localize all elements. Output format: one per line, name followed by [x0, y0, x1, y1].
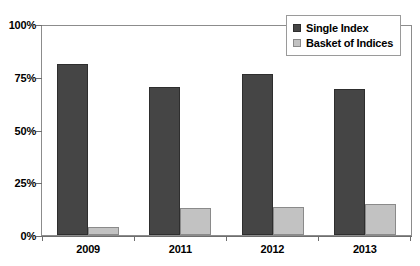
legend-label: Single Index [306, 22, 368, 34]
bar-single-index-2012 [242, 74, 273, 235]
legend-item-single-index: Single Index [293, 20, 393, 35]
bar-group-2013 [334, 26, 396, 235]
x-tick-mark [318, 236, 319, 241]
bar-chart: 100% 75% 50% 25% 0% [0, 0, 420, 266]
x-axis-labels: 2009 2011 2012 2013 [42, 243, 411, 255]
y-axis: 100% 75% 50% 25% 0% [0, 25, 36, 236]
legend-swatch-icon [293, 24, 301, 32]
y-tick-label: 50% [15, 125, 36, 137]
x-label-2009: 2009 [76, 243, 100, 255]
x-axis-ticks [42, 236, 411, 241]
x-tick-mark [134, 236, 135, 241]
legend-label: Basket of Indices [306, 37, 393, 49]
bar-groups [42, 26, 411, 235]
y-tick-label: 75% [15, 72, 36, 84]
bar-basket-of-indices-2011 [180, 208, 211, 235]
bar-group-2011 [149, 26, 211, 235]
bar-single-index-2009 [57, 64, 88, 235]
y-tick-label: 0% [21, 230, 37, 242]
x-tick-mark [410, 236, 411, 241]
bar-basket-of-indices-2012 [273, 207, 304, 235]
bar-basket-of-indices-2009 [88, 227, 119, 235]
chart-legend: Single Index Basket of Indices [286, 15, 401, 56]
bar-single-index-2011 [149, 87, 180, 235]
bar-group-2009 [57, 26, 119, 235]
y-tick-label: 25% [15, 177, 36, 189]
y-tick-label: 100% [9, 19, 36, 31]
plot-area [42, 26, 411, 235]
bar-basket-of-indices-2013 [365, 204, 396, 235]
legend-swatch-icon [293, 39, 301, 47]
x-label-2011: 2011 [169, 243, 192, 255]
legend-item-basket-of-indices: Basket of Indices [293, 35, 393, 50]
bar-group-2012 [242, 26, 304, 235]
bar-single-index-2013 [334, 89, 365, 235]
x-tick-mark [42, 236, 43, 241]
x-label-2013: 2013 [353, 243, 377, 255]
x-label-2012: 2012 [261, 243, 285, 255]
x-tick-mark [226, 236, 227, 241]
